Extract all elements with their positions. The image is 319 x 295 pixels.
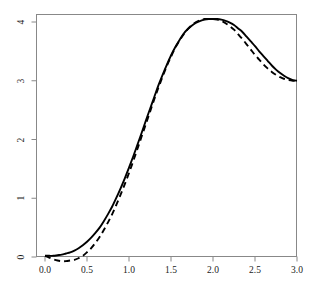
x-tick-label-4: 2.0 <box>207 266 219 276</box>
y-tick-label-1: 1 <box>17 196 27 201</box>
x-tick-label-5: 2.5 <box>249 266 261 276</box>
x-tick-label-2: 1.0 <box>123 266 135 276</box>
x-tick-label-0: 0.0 <box>39 266 51 276</box>
figure-background <box>0 0 319 295</box>
y-tick-label-2: 2 <box>17 137 27 142</box>
y-tick-label-0: 0 <box>17 255 27 260</box>
x-tick-label-3: 1.5 <box>165 266 177 276</box>
y-tick-label-4: 4 <box>17 20 27 25</box>
x-tick-label-6: 3.0 <box>291 266 303 276</box>
x-tick-label-1: 0.5 <box>81 266 93 276</box>
chart-canvas <box>0 0 319 295</box>
y-tick-label-3: 3 <box>17 78 27 83</box>
plot-figure: 0.00.51.01.52.02.53.0 01234 <box>0 0 319 295</box>
